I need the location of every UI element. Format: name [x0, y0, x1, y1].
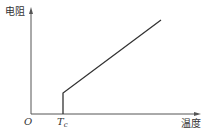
tc-subscript: c: [64, 121, 68, 129]
x-axis-arrow-icon: [194, 112, 201, 116]
critical-temperature-label: Tc: [57, 117, 68, 129]
resistance-temperature-diagram: 电阻 温度 O Tc: [0, 0, 213, 139]
origin-label: O: [24, 117, 32, 127]
y-axis-arrow-icon: [29, 7, 33, 14]
tc-main: T: [57, 116, 64, 127]
x-axis-label: 温度: [181, 119, 200, 129]
y-axis-label: 电阻: [5, 7, 24, 17]
resistance-curve: [63, 20, 161, 114]
